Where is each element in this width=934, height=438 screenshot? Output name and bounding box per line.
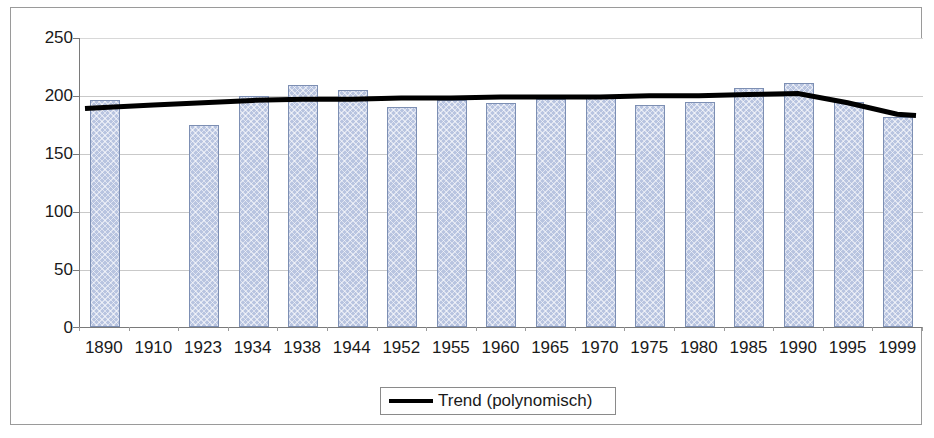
y-tick-label-0: 0: [64, 319, 73, 336]
x-tick-label: 1960: [476, 338, 526, 358]
x-tick-label: 1999: [872, 338, 922, 358]
x-tick-label: 1995: [823, 338, 873, 358]
legend-label-trend: Trend (polynomisch): [438, 392, 592, 410]
y-tick-label-50: 50: [54, 261, 73, 278]
x-tick: [922, 327, 923, 331]
x-tick: [228, 327, 229, 331]
x-tick: [426, 327, 427, 331]
x-tick: [476, 327, 477, 331]
trend-line-series: [79, 38, 923, 328]
x-tick-label: 1923: [178, 338, 228, 358]
x-tick-label: 1944: [327, 338, 377, 358]
y-tick-label-100: 100: [45, 203, 73, 220]
chart-container: 250 200 150 100 50 0: [10, 7, 922, 425]
x-tick: [773, 327, 774, 331]
x-axis-line: [79, 327, 923, 328]
screenshot-root: 250 200 150 100 50 0: [0, 0, 934, 438]
x-tick: [129, 327, 130, 331]
chart-legend: Trend (polynomisch): [380, 387, 616, 415]
x-tick: [377, 327, 378, 331]
x-tick-label: 1955: [426, 338, 476, 358]
x-tick-label: 1975: [624, 338, 674, 358]
x-tick: [525, 327, 526, 331]
x-tick: [327, 327, 328, 331]
x-tick-label: 1934: [228, 338, 278, 358]
y-tick-label-150: 150: [45, 145, 73, 162]
x-tick: [724, 327, 725, 331]
y-axis-labels: 250 200 150 100 50 0: [11, 38, 73, 328]
trend-line-path: [85, 94, 916, 116]
y-tick-label-250: 250: [45, 29, 73, 46]
x-tick-label: 1938: [277, 338, 327, 358]
y-tick-label-200: 200: [45, 87, 73, 104]
x-tick-label: 1890: [79, 338, 129, 358]
x-tick: [575, 327, 576, 331]
x-tick: [674, 327, 675, 331]
x-tick: [624, 327, 625, 331]
x-tick-label: 1980: [674, 338, 724, 358]
x-tick: [872, 327, 873, 331]
x-axis-labels: 1890191019231934193819441952195519601965…: [79, 338, 923, 364]
x-tick: [178, 327, 179, 331]
x-tick-label: 1990: [773, 338, 823, 358]
x-tick-label: 1952: [377, 338, 427, 358]
x-tick-label: 1985: [724, 338, 774, 358]
x-tick-label: 1910: [129, 338, 179, 358]
x-tick: [277, 327, 278, 331]
x-tick: [823, 327, 824, 331]
plot-area: [79, 38, 923, 328]
legend-line-swatch-icon: [389, 399, 433, 403]
x-tick-label: 1970: [575, 338, 625, 358]
x-tick-label: 1965: [525, 338, 575, 358]
x-tick: [79, 327, 80, 331]
